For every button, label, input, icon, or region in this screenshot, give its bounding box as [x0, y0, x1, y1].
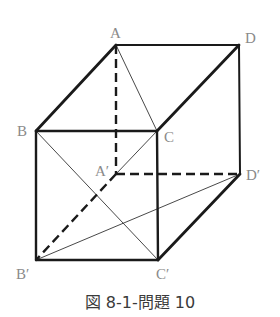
label-a-prime: A′ [95, 163, 109, 179]
cube-diagram: A D B C A′ D′ B′ C′ 図 8-1-問題 10 [0, 0, 280, 317]
label-d-prime: D′ [246, 167, 260, 183]
edge-a-b [36, 45, 116, 131]
edge-c-prime-d-prime [158, 174, 240, 260]
label-b-prime: B′ [16, 266, 29, 282]
label-d: D [245, 30, 256, 46]
diagonal-a-c [116, 45, 157, 131]
label-c: C [164, 129, 174, 145]
label-c-prime: C′ [156, 266, 169, 282]
edge-c-c-prime [157, 131, 158, 260]
edge-a-prime-b-prime [36, 174, 116, 260]
edge-c-d [157, 45, 239, 131]
diagonal-b-prime-d-prime [36, 174, 240, 260]
figure-caption: 図 8-1-問題 10 [85, 293, 195, 312]
label-b: B [17, 123, 27, 139]
edge-d-d-prime [239, 45, 240, 174]
label-a: A [110, 25, 121, 41]
diagonal-c-a-prime [116, 131, 157, 174]
